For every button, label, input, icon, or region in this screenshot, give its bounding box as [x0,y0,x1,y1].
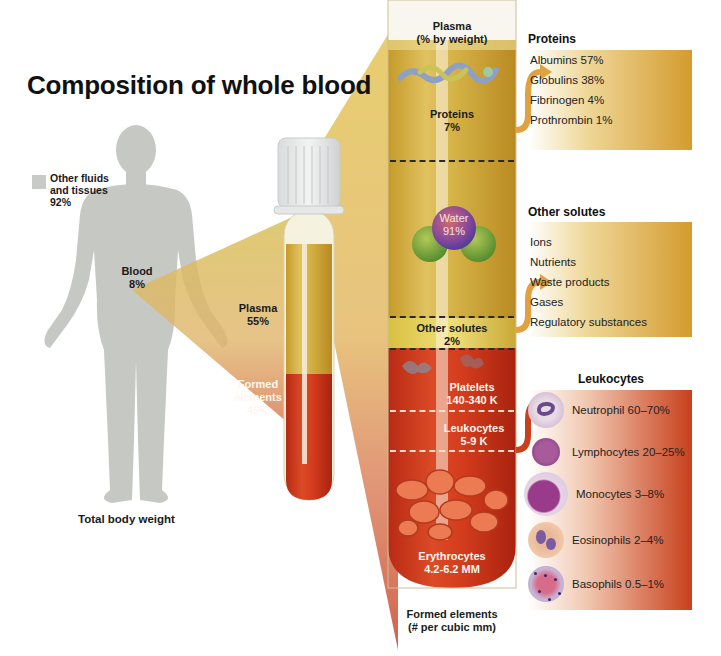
proteins-item: Fibrinogen 4% [530,90,612,110]
formed-value: 45% [226,404,290,417]
legend-swatch [32,175,46,189]
legend-line1: Other fluids [50,172,109,184]
plasma-value: 55% [230,315,286,328]
water-label: Water [430,212,478,225]
leukocyte-row-lymphocyte: Lymphocytes 20–25% [528,432,685,472]
formed-heading-line2: (# per cubic mm) [388,621,516,634]
lymphocyte-text: Lymphocytes 20–25% [572,446,685,458]
plasma-heading-line1: Plasma [398,20,506,33]
solutes-item: Regulatory substances [530,312,647,332]
other-solutes-list: Ions Nutrients Waste products Gases Regu… [530,232,647,332]
proteins-item: Globulins 38% [530,70,612,90]
solutes-item: Gases [530,292,647,312]
neutrophil-icon [528,392,564,428]
basophil-text: Basophils 0.5–1% [572,578,664,590]
monocyte-text: Monocytes 3–8% [576,488,664,500]
basophil-icon [528,566,564,602]
plasma-heading: Plasma (% by weight) [398,20,506,46]
solutes-item: Waste products [530,272,647,292]
divider-platelets-leukocytes [390,410,514,412]
platelets-value: 140-340 K [430,394,514,407]
legend-line2: and tissues [50,184,109,196]
lymphocyte-icon [532,438,560,466]
small-tube-plasma-label: Plasma 55% [230,302,286,328]
erythrocytes-section-label: Erythrocytes 4.2-6.2 MM [400,550,504,576]
body-caption: Total body weight [78,513,175,526]
other-solutes-value: 2% [396,335,508,348]
leukocyte-row-basophil: Basophils 0.5–1% [528,564,664,604]
divider-leukocytes-erythrocytes [390,450,514,452]
proteins-section-label: Proteins 7% [400,108,504,134]
eosinophil-text: Eosinophils 2–4% [572,534,663,546]
divider-solutes-formed [390,348,514,350]
solutes-item: Ions [530,232,647,252]
platelets-label: Platelets [430,381,514,394]
blood-label: Blood 8% [112,265,162,291]
small-tube-formed-label: Formed elements 45% [226,378,290,417]
water-value: 91% [430,225,478,238]
page-title: Composition of whole blood [27,70,371,101]
blood-value: 8% [112,278,162,291]
leukocyte-row-neutrophil: Neutrophil 60–70% [528,390,670,430]
other-solutes-section-label: Other solutes 2% [396,322,508,348]
leukocytes-label: Leukocytes [432,422,516,435]
leukocytes-value: 5-9 K [432,435,516,448]
leukocyte-row-eosinophil: Eosinophils 2–4% [528,520,663,560]
plasma-label: Plasma [230,302,286,315]
other-fluids-legend: Other fluids and tissues 92% [50,172,109,208]
other-solutes-panel-heading: Other solutes [528,205,605,219]
leukocyte-row-monocyte: Monocytes 3–8% [528,474,664,514]
proteins-panel-heading: Proteins [528,32,576,46]
leukocytes-panel-heading: Leukocytes [578,372,644,386]
formed-heading-line1: Formed elements [388,608,516,621]
eosinophil-icon [528,522,564,558]
proteins-label: Proteins [400,108,504,121]
formed-elements-heading: Formed elements (# per cubic mm) [388,608,516,634]
erythrocytes-label: Erythrocytes [400,550,504,563]
erythrocytes-value: 4.2-6.2 MM [400,563,504,576]
other-solutes-label: Other solutes [396,322,508,335]
neutrophil-text: Neutrophil 60–70% [572,404,670,416]
legend-value: 92% [50,196,109,208]
proteins-list: Albumins 57% Globulins 38% Fibrinogen 4%… [530,50,612,130]
proteins-item: Prothrombin 1% [530,110,612,130]
solutes-item: Nutrients [530,252,647,272]
plasma-heading-line2: (% by weight) [398,33,506,46]
platelets-section-label: Platelets 140-340 K [430,381,514,407]
divider-water-solutes [390,316,514,318]
monocyte-icon [524,472,568,516]
water-section-label: Water 91% [430,212,478,238]
divider-proteins-water [390,160,514,162]
leukocytes-section-label: Leukocytes 5-9 K [432,422,516,448]
proteins-value: 7% [400,121,504,134]
formed-line1: Formed [226,378,290,391]
formed-line2: elements [226,391,290,404]
proteins-item: Albumins 57% [530,50,612,70]
blood-label-text: Blood [112,265,162,278]
